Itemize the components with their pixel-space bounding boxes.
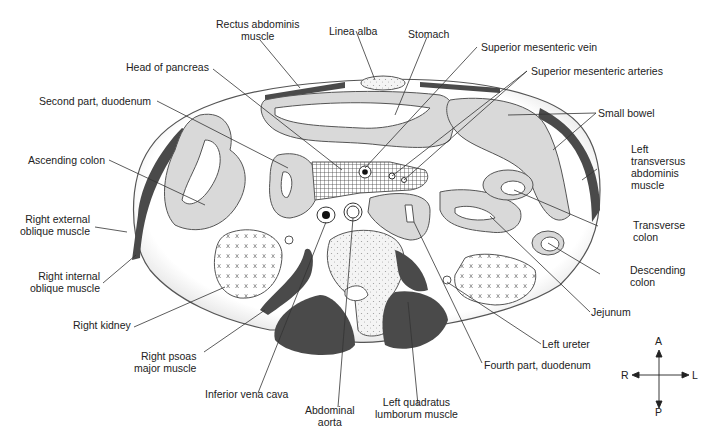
- label-left-quadratus-lumborum-muscle: Left quadratus lumborum muscle: [375, 396, 458, 420]
- label-left-transversus-abdominis-muscle: Left transversus abdominis muscle: [631, 143, 685, 191]
- label-rectus-abdominis-muscle: Rectus abdominis muscle: [216, 18, 299, 42]
- linea-alba: [361, 76, 405, 90]
- compass-right: R: [621, 369, 629, 381]
- orientation-compass: [632, 350, 689, 408]
- label-small-bowel: Small bowel: [598, 107, 655, 119]
- label-right-internal-oblique-muscle: Right internal oblique muscle: [30, 270, 100, 294]
- label-linea-alba: Linea alba: [329, 25, 377, 37]
- compass-anterior: A: [655, 335, 662, 347]
- label-right-kidney: Right kidney: [73, 319, 131, 331]
- right-ureter: [285, 236, 293, 244]
- label-right-external-oblique-muscle: Right external oblique muscle: [20, 213, 90, 237]
- label-transverse-colon: Transverse colon: [633, 219, 685, 243]
- label-superior-mesenteric-arteries: Superior mesenteric arteries: [531, 65, 663, 77]
- label-abdominal-aorta: Abdominal aorta: [305, 404, 355, 428]
- compass-left: L: [692, 369, 698, 381]
- label-jejunum: Jejunum: [591, 306, 631, 318]
- label-head-of-pancreas: Head of pancreas: [126, 61, 209, 73]
- label-ascending-colon: Ascending colon: [28, 154, 105, 166]
- label-superior-mesenteric-vein: Superior mesenteric vein: [481, 41, 597, 53]
- compass-posterior: P: [655, 406, 662, 418]
- label-inferior-vena-cava: Inferior vena cava: [205, 388, 288, 400]
- label-right-psoas-major-muscle: Right psoas major muscle: [134, 350, 196, 374]
- label-fourth-part-duodenum: Fourth part, duodenum: [484, 359, 591, 371]
- left-kidney: [455, 254, 536, 305]
- label-second-part-duodenum: Second part, duodenum: [39, 95, 151, 107]
- label-left-ureter: Left ureter: [542, 338, 590, 350]
- left-ureter: [443, 276, 451, 284]
- label-stomach: Stomach: [408, 28, 449, 40]
- label-descending-colon: Descending colon: [630, 264, 685, 288]
